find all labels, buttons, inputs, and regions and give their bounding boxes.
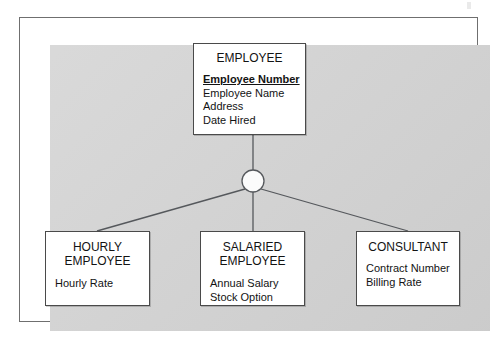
- connector-circle-to-hourly: [97, 189, 245, 231]
- attribute-list-salaried-employee: Annual Salary Stock Option: [210, 277, 295, 304]
- attribute-item: Employee Name: [203, 87, 296, 101]
- attribute-item: Contract Number: [366, 262, 450, 276]
- entity-title-salaried-employee: SALARIED EMPLOYEE: [210, 240, 295, 268]
- attribute-list-hourly-employee: Hourly Rate: [55, 277, 140, 291]
- attribute-list-employee: Employee Number Employee Name Address Da…: [203, 73, 296, 127]
- attribute-primary-key: Employee Number: [203, 73, 296, 87]
- entity-box-salaried-employee[interactable]: SALARIED EMPLOYEE Annual Salary Stock Op…: [200, 231, 305, 306]
- diagram-page: EMPLOYEE Employee Number Employee Name A…: [0, 0, 498, 338]
- attribute-list-consultant: Contract Number Billing Rate: [366, 262, 450, 289]
- entity-title-employee: EMPLOYEE: [203, 51, 296, 65]
- entity-box-consultant[interactable]: CONSULTANT Contract Number Billing Rate: [356, 231, 460, 306]
- attribute-item: Stock Option: [210, 291, 295, 305]
- entity-title-consultant: CONSULTANT: [366, 240, 450, 254]
- connector-circle-to-consultant: [261, 189, 408, 231]
- attribute-item: Billing Rate: [366, 276, 450, 290]
- entity-box-employee[interactable]: EMPLOYEE Employee Number Employee Name A…: [193, 43, 306, 135]
- attribute-item: Annual Salary: [210, 277, 295, 291]
- attribute-item: Hourly Rate: [55, 277, 140, 291]
- entity-box-hourly-employee[interactable]: HOURLY EMPLOYEE Hourly Rate: [45, 231, 150, 306]
- entity-title-hourly-employee: HOURLY EMPLOYEE: [55, 240, 140, 268]
- supertype-subtype-circle-symbol: [242, 170, 264, 192]
- attribute-item: Address: [203, 100, 296, 114]
- attribute-item: Date Hired: [203, 114, 296, 128]
